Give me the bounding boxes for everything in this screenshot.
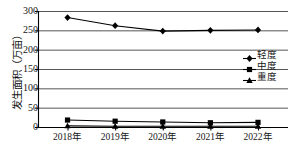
- chart-legend: 轻度中度重度: [243, 50, 291, 83]
- legend-marker-square-icon: [243, 61, 256, 72]
- legend-item-中度: 中度: [243, 61, 291, 72]
- legend-label: 中度: [256, 61, 277, 72]
- x-tick-label: 2020年: [140, 132, 186, 142]
- x-tick-label: 2018年: [45, 132, 91, 142]
- legend-marker-triangle-icon: [243, 72, 256, 83]
- legend-label: 轻度: [256, 50, 277, 61]
- x-tick-label: 2022年: [235, 132, 281, 142]
- x-tick-label: 2019年: [92, 132, 138, 142]
- x-tick-label: 2021年: [187, 132, 233, 142]
- chart-figure: 发生面积（万亩） 050100150200250300 2018年2019年20…: [0, 0, 292, 157]
- legend-label: 重度: [256, 72, 277, 83]
- legend-item-轻度: 轻度: [243, 50, 291, 61]
- legend-marker-diamond-icon: [243, 50, 256, 61]
- legend-item-重度: 重度: [243, 72, 291, 83]
